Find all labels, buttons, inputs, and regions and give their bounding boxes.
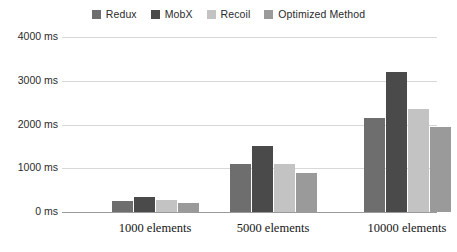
y-tick-label: 1000 ms [0, 162, 58, 173]
y-tick-label: 4000 ms [0, 31, 58, 42]
bar [156, 200, 177, 212]
bar-chart: Redux MobX Recoil Optimized Method 0 ms1… [0, 0, 457, 252]
bar-group [364, 37, 451, 212]
bar [112, 201, 133, 212]
legend-swatch-mobx [151, 10, 160, 19]
bar [364, 118, 385, 212]
x-axis-label: 5000 elements [203, 221, 343, 235]
bar [178, 203, 199, 212]
legend-item-redux: Redux [92, 9, 137, 20]
bar-group [230, 37, 317, 212]
plot-area: 0 ms1000 ms2000 ms3000 ms4000 ms [62, 37, 437, 212]
bar [230, 164, 251, 212]
bar [386, 72, 407, 212]
bar [296, 173, 317, 212]
bar [430, 127, 451, 212]
y-tick-label: 3000 ms [0, 75, 58, 86]
bar [252, 146, 273, 212]
legend-label-recoil: Recoil [221, 9, 251, 20]
legend-item-optimized-method: Optimized Method [264, 9, 365, 20]
x-axis-label: 10000 elements [337, 221, 457, 235]
bar [134, 197, 155, 212]
bar [274, 164, 295, 212]
legend-label-optimized-method: Optimized Method [278, 9, 365, 20]
legend-swatch-optimized-method [264, 10, 273, 19]
legend-swatch-redux [92, 10, 101, 19]
bar-group [112, 37, 199, 212]
x-axis-line [62, 212, 437, 213]
legend-item-recoil: Recoil [207, 9, 251, 20]
legend-item-mobx: MobX [151, 9, 193, 20]
legend-swatch-recoil [207, 10, 216, 19]
y-tick-label: 0 ms [0, 206, 58, 217]
chart-legend: Redux MobX Recoil Optimized Method [0, 6, 457, 22]
y-tick-label: 2000 ms [0, 119, 58, 130]
legend-label-mobx: MobX [165, 9, 193, 20]
bar [408, 109, 429, 212]
legend-label-redux: Redux [106, 9, 137, 20]
